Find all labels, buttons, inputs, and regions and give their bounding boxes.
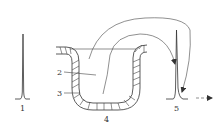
label-4: 4 <box>104 115 109 124</box>
label-5: 5 <box>174 104 179 113</box>
label-2: 2 <box>57 68 62 77</box>
label-3: 3 <box>57 89 62 98</box>
hatched-wall <box>60 45 144 110</box>
diagram-canvas: 1 2 3 4 5 <box>0 0 223 127</box>
u-channel <box>56 45 147 110</box>
label-1: 1 <box>20 104 25 113</box>
input-peak <box>15 34 30 99</box>
leader-2 <box>64 72 96 75</box>
output-peak <box>166 30 188 99</box>
